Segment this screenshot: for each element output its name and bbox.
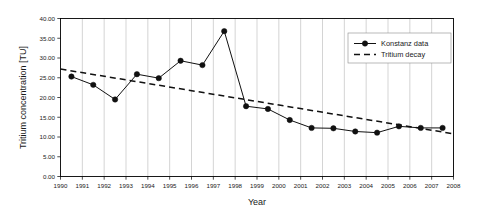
x-tick-label: 1999 <box>250 182 264 189</box>
y-tick-label: 0.00 <box>43 173 56 180</box>
x-tick-label: 1998 <box>228 182 242 189</box>
y-tick-label: 15.00 <box>40 114 56 121</box>
data-point-marker <box>178 58 183 63</box>
data-point-marker <box>331 126 336 131</box>
data-point-marker <box>440 125 445 130</box>
x-tick-label: 1991 <box>75 182 89 189</box>
data-point-marker <box>156 75 161 80</box>
x-tick-label: 2004 <box>359 182 373 189</box>
data-point-marker <box>134 72 139 77</box>
x-tick-label: 1993 <box>119 182 133 189</box>
x-tick-label: 1990 <box>54 182 68 189</box>
data-point-marker <box>222 28 227 33</box>
y-tick-label: 35.00 <box>40 35 56 42</box>
tritium-concentration-line-chart: 1990199119921993199419951996199719981999… <box>0 0 492 214</box>
data-point-marker <box>112 97 117 102</box>
x-tick-label: 1995 <box>163 182 177 189</box>
x-tick-label: 2001 <box>294 182 308 189</box>
data-point-marker <box>91 82 96 87</box>
x-tick-label: 2000 <box>272 182 286 189</box>
data-point-marker <box>396 124 401 129</box>
data-point-marker <box>200 62 205 67</box>
chart-figure: 1990199119921993199419951996199719981999… <box>0 0 492 214</box>
x-tick-label: 1997 <box>206 182 220 189</box>
y-tick-label: 25.00 <box>40 74 56 81</box>
y-tick-label: 10.00 <box>40 133 56 140</box>
data-point-marker <box>287 117 292 122</box>
x-tick-label: 1994 <box>141 182 155 189</box>
y-tick-label: 20.00 <box>40 94 56 101</box>
x-tick-label: 2005 <box>381 182 395 189</box>
x-tick-label: 1992 <box>97 182 111 189</box>
legend-label-tritium-decay: Tritium decay <box>381 50 425 59</box>
y-tick-label: 40.00 <box>40 15 56 22</box>
chart-legend: Konstanz dataTritium decay <box>348 33 451 63</box>
data-point-marker <box>309 125 314 130</box>
data-point-marker <box>418 125 423 130</box>
data-point-marker <box>69 74 74 79</box>
x-axis-title: Year <box>248 197 266 207</box>
data-point-marker <box>374 130 379 135</box>
y-tick-label: 5.00 <box>43 153 56 160</box>
x-tick-label: 2003 <box>337 182 351 189</box>
data-point-marker <box>353 129 358 134</box>
x-tick-label: 2006 <box>403 182 417 189</box>
x-tick-label: 2008 <box>447 182 461 189</box>
x-tick-label: 2007 <box>425 182 439 189</box>
data-point-marker <box>243 103 248 108</box>
y-tick-label: 30.00 <box>40 54 56 61</box>
x-tick-label: 1996 <box>185 182 199 189</box>
x-tick-label: 2002 <box>316 182 330 189</box>
legend-swatch-konstanz-marker <box>362 41 367 46</box>
data-point-marker <box>265 106 270 111</box>
y-axis-title: Tritium concentration [TU] <box>18 46 28 149</box>
legend-label-konstanz-data: Konstanz data <box>381 39 429 48</box>
